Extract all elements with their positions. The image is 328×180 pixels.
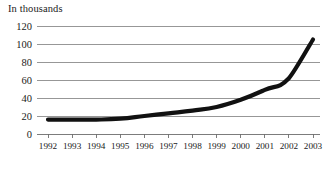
y-axis-tick-label: 60	[22, 75, 33, 86]
x-axis-tick-label: 2003	[304, 141, 323, 151]
line-chart: In thousands 020406080100120 19921993199…	[0, 0, 328, 180]
chart-plot-area: 020406080100120 199219931994199519961997…	[0, 0, 328, 180]
y-axis-tick-label: 0	[27, 129, 32, 140]
y-axis-tick-label: 80	[22, 57, 33, 68]
x-axis-tick-label: 1997	[159, 141, 178, 151]
x-axis-tick-label: 2000	[232, 141, 251, 151]
y-axis-tick-label: 120	[16, 21, 32, 32]
x-axis-tick-label: 1999	[207, 141, 226, 151]
x-axis-tick-label: 1995	[111, 141, 130, 151]
x-axis-tick-label: 2001	[256, 141, 275, 151]
x-axis-tick-label: 1994	[87, 141, 106, 151]
x-axis-tick-labels: 1992199319941995199619971998199920002001…	[39, 141, 323, 151]
x-axis-tick-label: 1992	[39, 141, 58, 151]
x-axis	[48, 134, 313, 138]
x-axis-tick-label: 1996	[135, 141, 154, 151]
y-axis-tick-label: 20	[22, 111, 33, 122]
x-axis-tick-label: 1998	[183, 141, 202, 151]
y-axis-tick-label: 40	[22, 93, 33, 104]
x-axis-tick-label: 2002	[280, 141, 299, 151]
x-axis-tick-label: 1993	[63, 141, 82, 151]
y-axis-tick-labels: 020406080100120	[16, 21, 32, 140]
y-axis-tick-label: 100	[16, 39, 32, 50]
